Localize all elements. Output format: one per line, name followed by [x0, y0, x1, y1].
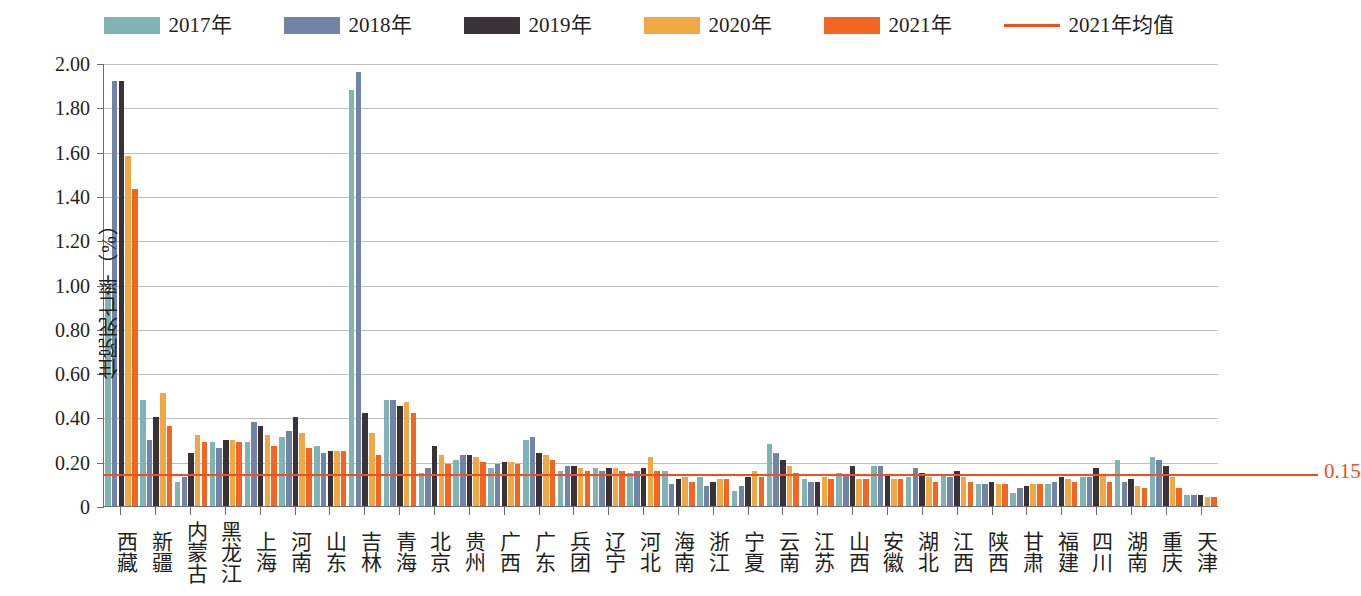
bar[interactable]: [1107, 482, 1113, 506]
bar[interactable]: [906, 477, 912, 506]
bar[interactable]: [1080, 477, 1086, 506]
bar[interactable]: [891, 479, 897, 506]
bar[interactable]: [697, 477, 703, 506]
bar[interactable]: [689, 482, 695, 506]
bar[interactable]: [724, 479, 730, 506]
bar[interactable]: [390, 400, 396, 506]
bar[interactable]: [495, 464, 501, 506]
bar[interactable]: [1184, 495, 1190, 506]
bar[interactable]: [1156, 460, 1162, 507]
bar[interactable]: [926, 477, 932, 506]
bar[interactable]: [328, 451, 334, 506]
bar[interactable]: [536, 453, 542, 506]
bar[interactable]: [947, 477, 953, 506]
bar[interactable]: [182, 477, 188, 506]
bar[interactable]: [787, 466, 793, 506]
bar[interactable]: [828, 479, 834, 506]
bar[interactable]: [1198, 495, 1204, 506]
bar[interactable]: [306, 448, 312, 506]
bar[interactable]: [453, 460, 459, 507]
bar[interactable]: [871, 466, 877, 506]
bar[interactable]: [467, 455, 473, 506]
bar[interactable]: [411, 413, 417, 506]
bar[interactable]: [1052, 482, 1058, 506]
bar[interactable]: [349, 90, 355, 506]
legend-item-2019年[interactable]: 2019年: [464, 15, 592, 36]
bar[interactable]: [1135, 486, 1141, 506]
bar[interactable]: [1002, 484, 1008, 506]
bar[interactable]: [773, 453, 779, 506]
bar[interactable]: [732, 491, 738, 507]
bar[interactable]: [836, 473, 842, 506]
bar[interactable]: [802, 479, 808, 506]
bar[interactable]: [1122, 482, 1128, 506]
bar[interactable]: [961, 477, 967, 506]
bar[interactable]: [1065, 479, 1071, 506]
bar[interactable]: [793, 473, 799, 506]
bar[interactable]: [175, 482, 181, 506]
bar[interactable]: [439, 455, 445, 506]
bar[interactable]: [682, 477, 688, 506]
legend-item-2018年[interactable]: 2018年: [284, 15, 412, 36]
bar[interactable]: [627, 473, 633, 506]
bar[interactable]: [515, 464, 521, 506]
bar[interactable]: [976, 484, 982, 506]
bar[interactable]: [856, 479, 862, 506]
bar[interactable]: [1142, 488, 1148, 506]
bar[interactable]: [153, 417, 159, 506]
bar[interactable]: [480, 462, 486, 506]
bar[interactable]: [216, 448, 222, 506]
bar[interactable]: [759, 477, 765, 506]
bar[interactable]: [508, 462, 514, 506]
bar[interactable]: [863, 479, 869, 506]
bar[interactable]: [1191, 495, 1197, 506]
bar[interactable]: [1163, 466, 1169, 506]
bar[interactable]: [933, 482, 939, 506]
bar[interactable]: [1128, 479, 1134, 506]
bar[interactable]: [251, 422, 257, 506]
bar[interactable]: [293, 417, 299, 506]
bar[interactable]: [885, 475, 891, 506]
bar[interactable]: [404, 402, 410, 506]
bar[interactable]: [376, 455, 382, 506]
bar[interactable]: [502, 462, 508, 506]
bar[interactable]: [258, 426, 264, 506]
bar[interactable]: [941, 475, 947, 506]
bar[interactable]: [132, 189, 138, 506]
bar[interactable]: [419, 473, 425, 506]
bar[interactable]: [1176, 488, 1182, 506]
bar[interactable]: [140, 400, 146, 506]
bar[interactable]: [473, 457, 479, 506]
bar[interactable]: [397, 406, 403, 506]
bar[interactable]: [1150, 457, 1156, 506]
legend-item-2017年[interactable]: 2017年: [104, 15, 232, 36]
bar[interactable]: [739, 486, 745, 506]
bar[interactable]: [571, 466, 577, 506]
bar[interactable]: [710, 482, 716, 506]
bar[interactable]: [384, 400, 390, 506]
legend-item-2020年[interactable]: 2020年: [644, 15, 772, 36]
bar[interactable]: [919, 473, 925, 506]
bar[interactable]: [286, 431, 292, 506]
bar[interactable]: [1211, 497, 1217, 506]
bar[interactable]: [195, 435, 201, 506]
bar[interactable]: [1030, 484, 1036, 506]
bar[interactable]: [815, 482, 821, 506]
bar[interactable]: [160, 393, 166, 506]
bar[interactable]: [1100, 475, 1106, 506]
bar[interactable]: [704, 486, 710, 506]
bar[interactable]: [188, 453, 194, 506]
bar[interactable]: [543, 455, 549, 506]
bar[interactable]: [530, 437, 536, 506]
bar[interactable]: [1024, 486, 1030, 506]
legend-item-2021年[interactable]: 2021年: [824, 15, 952, 36]
bar[interactable]: [1087, 477, 1093, 506]
bar[interactable]: [1205, 497, 1211, 506]
bar[interactable]: [445, 464, 451, 506]
bar[interactable]: [1115, 460, 1121, 507]
bar[interactable]: [321, 453, 327, 506]
bar[interactable]: [898, 479, 904, 506]
bar[interactable]: [1170, 477, 1176, 506]
bar[interactable]: [1017, 488, 1023, 506]
bar[interactable]: [334, 451, 340, 506]
